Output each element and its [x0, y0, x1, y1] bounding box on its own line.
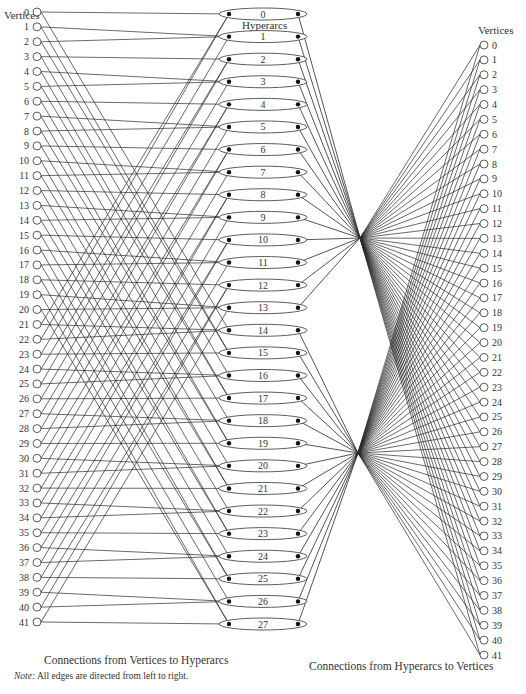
svg-text:7: 7: [24, 111, 29, 122]
hyperarc-23: 23: [219, 528, 307, 540]
svg-text:2: 2: [24, 36, 29, 47]
svg-text:3: 3: [24, 51, 29, 62]
right-vertex-6: 6: [480, 129, 497, 140]
left-vertex-38: 38: [19, 572, 41, 583]
svg-text:37: 37: [492, 590, 502, 601]
svg-text:35: 35: [492, 560, 502, 571]
svg-text:10: 10: [492, 188, 502, 199]
left-vertex-1: 1: [24, 21, 41, 32]
right-vertex-16: 16: [480, 278, 502, 289]
svg-text:0: 0: [261, 9, 266, 20]
hyperarc-16: 16: [219, 369, 307, 381]
svg-text:26: 26: [492, 426, 502, 437]
svg-text:24: 24: [258, 551, 268, 562]
svg-text:9: 9: [492, 173, 497, 184]
svg-text:8: 8: [24, 126, 29, 137]
svg-text:34: 34: [19, 512, 29, 523]
svg-text:10: 10: [258, 234, 268, 245]
right-vertex-17: 17: [480, 292, 502, 303]
hyperarc-21: 21: [219, 482, 307, 494]
right-vertex-4: 4: [480, 99, 497, 110]
svg-text:13: 13: [19, 200, 29, 211]
footnote: Note: All edges are directed from left t…: [14, 671, 188, 681]
svg-text:41: 41: [19, 617, 29, 628]
right-vertex-36: 36: [480, 575, 502, 586]
svg-text:18: 18: [258, 415, 268, 426]
svg-text:1: 1: [24, 21, 29, 32]
left-vertex-41: 41: [19, 617, 41, 628]
svg-text:3: 3: [492, 84, 497, 95]
hyperarc-27: 27: [219, 618, 307, 630]
svg-text:4: 4: [492, 99, 497, 110]
vertex-to-hyperarc-edges: [41, 12, 229, 624]
svg-text:20: 20: [258, 460, 268, 471]
left-vertex-14: 14: [19, 215, 41, 226]
left-vertex-3: 3: [24, 51, 41, 62]
svg-text:21: 21: [258, 483, 268, 494]
hyperarc-0: 0: [219, 8, 307, 20]
svg-text:23: 23: [19, 349, 29, 360]
svg-text:18: 18: [19, 274, 29, 285]
left-vertex-18: 18: [19, 274, 41, 285]
svg-text:1: 1: [492, 54, 497, 65]
svg-text:22: 22: [492, 367, 502, 378]
svg-text:28: 28: [19, 423, 29, 434]
right-vertex-9: 9: [480, 173, 497, 184]
left-vertex-column: 0123456789101112131415161718192021222324…: [19, 7, 41, 628]
left-vertex-15: 15: [19, 230, 41, 241]
hyperarc-to-vertex-edges: [298, 14, 480, 655]
hyperarc-17: 17: [219, 392, 307, 404]
hyperarc-14: 14: [219, 324, 307, 336]
svg-text:38: 38: [492, 605, 502, 616]
svg-text:4: 4: [261, 99, 266, 110]
right-vertex-28: 28: [480, 456, 502, 467]
left-vertex-28: 28: [19, 423, 41, 434]
right-vertex-1: 1: [480, 54, 497, 65]
right-vertex-column: 0123456789101112131415161718192021222324…: [480, 40, 502, 661]
left-vertex-5: 5: [24, 81, 41, 92]
right-vertex-34: 34: [480, 545, 502, 556]
hyperarc-22: 22: [219, 505, 307, 517]
svg-text:36: 36: [492, 575, 502, 586]
svg-text:25: 25: [19, 378, 29, 389]
left-vertex-21: 21: [19, 319, 41, 330]
svg-text:12: 12: [492, 218, 502, 229]
svg-text:20: 20: [492, 337, 502, 348]
right-vertex-19: 19: [480, 322, 502, 333]
svg-text:0: 0: [492, 40, 497, 51]
svg-text:30: 30: [19, 453, 29, 464]
note-label: Note:: [14, 671, 35, 681]
left-vertex-6: 6: [24, 96, 41, 107]
svg-text:17: 17: [258, 393, 268, 404]
svg-text:24: 24: [19, 364, 29, 375]
right-vertex-11: 11: [480, 203, 502, 214]
left-vertex-19: 19: [19, 289, 41, 300]
left-vertex-13: 13: [19, 200, 41, 211]
left-vertex-36: 36: [19, 542, 41, 553]
right-vertex-30: 30: [480, 486, 502, 497]
left-vertex-10: 10: [19, 155, 41, 166]
right-vertices-title: Vertices: [478, 24, 513, 36]
right-vertex-21: 21: [480, 352, 502, 363]
hyperarc-column: 0123456789101112131415161718192021222324…: [219, 8, 307, 630]
svg-text:17: 17: [492, 292, 502, 303]
svg-text:15: 15: [492, 263, 502, 274]
left-vertex-12: 12: [19, 185, 41, 196]
right-vertex-39: 39: [480, 620, 502, 631]
svg-text:31: 31: [492, 501, 502, 512]
right-vertex-31: 31: [480, 501, 502, 512]
hyperarc-10: 10: [219, 234, 307, 246]
svg-text:28: 28: [492, 456, 502, 467]
left-vertex-7: 7: [24, 111, 41, 122]
right-vertex-18: 18: [480, 307, 502, 318]
svg-text:20: 20: [19, 304, 29, 315]
left-vertex-24: 24: [19, 364, 41, 375]
left-vertex-27: 27: [19, 408, 41, 419]
svg-text:17: 17: [19, 259, 29, 270]
svg-text:6: 6: [24, 96, 29, 107]
right-caption: Connections from Hyperarcs to Vertices: [309, 660, 493, 672]
left-vertex-23: 23: [19, 349, 41, 360]
svg-text:7: 7: [492, 144, 497, 155]
right-vertex-20: 20: [480, 337, 502, 348]
right-vertex-10: 10: [480, 188, 502, 199]
